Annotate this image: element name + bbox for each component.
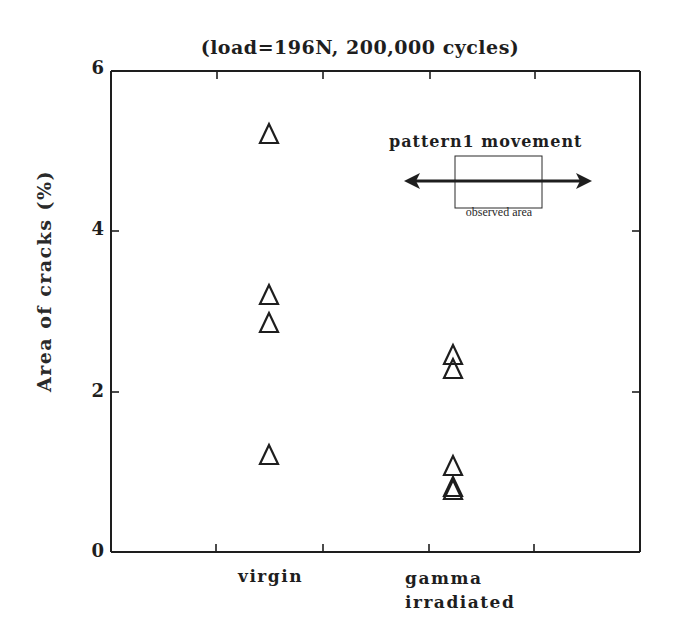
y-ticks-left — [111, 231, 119, 392]
series-virgin — [260, 124, 278, 464]
data-point-triangle — [260, 124, 278, 143]
axes-frame — [111, 71, 640, 552]
annotation-graphic — [404, 156, 592, 208]
data-point-triangle — [260, 445, 278, 464]
x-ticks-bottom — [216, 544, 534, 552]
y-ticks-right — [632, 231, 640, 392]
x-ticks-top — [217, 71, 535, 79]
plot-area — [0, 0, 677, 640]
data-point-triangle — [444, 359, 462, 378]
data-point-triangle — [260, 313, 278, 332]
data-point-triangle — [444, 456, 462, 475]
data-point-triangle — [260, 285, 278, 304]
series-gamma-irradiated — [444, 345, 462, 499]
